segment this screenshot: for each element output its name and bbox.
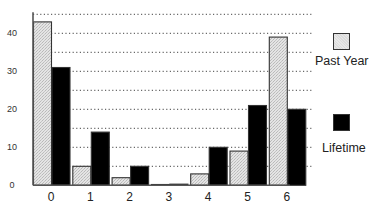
y-tick-label: 30 <box>7 66 17 76</box>
bar-lifetime-0 <box>52 68 70 186</box>
bar-past-year-4 <box>191 174 209 185</box>
bar-past-year-6 <box>269 37 287 185</box>
x-axis-ticks: 0123456 <box>48 190 291 204</box>
x-tick-label: 2 <box>126 190 133 204</box>
bar-lifetime-2 <box>131 166 149 185</box>
bar-chart: 010203040 0123456 <box>0 0 382 212</box>
bar-past-year-2 <box>112 178 130 186</box>
legend-label-lifetime: Lifetime <box>322 141 366 155</box>
legend-label-past-year: Past Year <box>315 54 369 68</box>
x-tick-label: 5 <box>244 190 251 204</box>
bar-lifetime-4 <box>209 147 227 185</box>
bar-past-year-0 <box>34 22 52 185</box>
bar-lifetime-1 <box>91 132 109 185</box>
y-axis-ticks: 010203040 <box>7 28 17 190</box>
bar-lifetime-6 <box>288 109 306 185</box>
legend-swatch-past-year <box>333 33 350 50</box>
bar-lifetime-5 <box>249 106 267 186</box>
x-tick-label: 0 <box>48 190 55 204</box>
x-tick-label: 6 <box>283 190 290 204</box>
x-tick-label: 1 <box>87 190 94 204</box>
y-tick-label: 0 <box>9 180 14 190</box>
x-tick-label: 3 <box>166 190 173 204</box>
y-tick-label: 40 <box>7 28 17 38</box>
bar-past-year-5 <box>230 151 248 185</box>
y-tick-label: 10 <box>7 142 17 152</box>
legend-swatch-lifetime <box>333 114 350 131</box>
bar-past-year-1 <box>73 166 91 185</box>
y-tick-label: 20 <box>7 104 17 114</box>
x-tick-label: 4 <box>205 190 212 204</box>
bars <box>34 22 306 185</box>
